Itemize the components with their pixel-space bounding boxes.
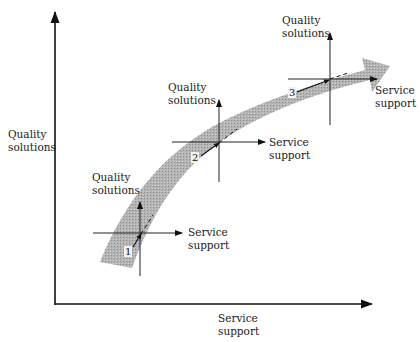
stage-2-quality-line1: Quality [168,81,216,94]
diagram: Quality solutions Service support Qualit… [0,0,420,342]
stage-2-quality-line2: solutions [168,94,216,107]
stage-2-quality-label: Quality solutions [168,81,216,107]
stage-3-service-label: Service support [375,84,416,110]
stage-3-number: 3 [288,87,296,98]
stage-2-service-line2: support [269,149,310,162]
x-axis-label-line1: Service [218,312,259,325]
stage-1-service-line2: support [188,239,229,252]
stage-1-number: 1 [124,246,132,257]
progression-band-arrow [100,58,390,268]
stage-3-crosshair [288,33,377,125]
stage-2-number: 2 [191,152,199,163]
diagram-graphics [0,0,420,342]
x-axis-label-line2: support [218,325,259,338]
stage-1-service-line1: Service [188,226,229,239]
stage-1-quality-label: Quality solutions [92,171,140,197]
stage-3-quality-label: Quality solutions [282,14,330,40]
stage-3-service-line2: support [375,97,416,110]
y-axis-label-line1: Quality [8,128,56,141]
stage-3-service-line1: Service [375,84,416,97]
y-axis-label: Quality solutions [8,128,56,154]
stage-3-quality-line2: solutions [282,27,330,40]
stage-1-quality-line2: solutions [92,184,140,197]
x-axis-label: Service support [218,312,259,338]
y-axis-label-line2: solutions [8,141,56,154]
stage-2-service-line1: Service [269,136,310,149]
stage-1-service-label: Service support [188,226,229,252]
stage-1-quality-line1: Quality [92,171,140,184]
stage-3-quality-line1: Quality [282,14,330,27]
stage-2-service-label: Service support [269,136,310,162]
